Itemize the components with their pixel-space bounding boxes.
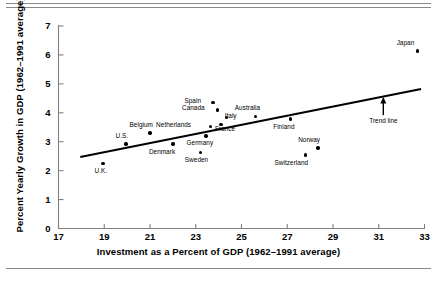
x-tick-label-31: 31 xyxy=(367,231,391,242)
data-point-label: U.S. xyxy=(115,132,128,139)
y-tick-label-0: 0 xyxy=(35,223,51,234)
y-tick-label-4: 4 xyxy=(35,107,51,118)
y-axis-title: Percent Yearly Growth in GDP (1962–1991 … xyxy=(14,23,25,233)
data-point xyxy=(204,134,207,137)
y-tick-label-6: 6 xyxy=(35,49,51,60)
arrow-head xyxy=(380,97,386,104)
data-point-label: Germany xyxy=(187,139,214,146)
x-tick-label-33: 33 xyxy=(413,231,437,242)
data-point-label: Netherlands xyxy=(156,121,191,128)
data-point-label: Italy xyxy=(225,112,237,119)
data-point xyxy=(101,162,104,165)
data-point-label: Norway xyxy=(298,136,320,143)
x-tick-label-23: 23 xyxy=(184,231,208,242)
data-point xyxy=(216,108,219,111)
x-tick-label-21: 21 xyxy=(138,231,162,242)
data-point-label: Canada xyxy=(182,104,205,111)
data-point xyxy=(254,115,257,118)
data-point xyxy=(199,151,202,154)
x-tick-label-27: 27 xyxy=(275,231,299,242)
y-tick-label-3: 3 xyxy=(35,136,51,147)
data-point-label: Japan xyxy=(397,39,415,46)
y-tick-label-5: 5 xyxy=(35,78,51,89)
data-point xyxy=(148,131,151,134)
x-tick-label-19: 19 xyxy=(92,231,116,242)
data-point xyxy=(304,153,307,156)
data-point-label: Spain xyxy=(184,97,201,104)
trend-line-label: Trend line xyxy=(369,117,397,124)
data-point xyxy=(171,142,174,145)
trend-line-arrow xyxy=(380,97,386,115)
figure-container: U.K.U.S.BelgiumDenmarkSwedenGermanyNethe… xyxy=(0,0,437,282)
data-point xyxy=(316,146,319,149)
data-point-label: Belgium xyxy=(130,121,153,128)
y-tick-label-1: 1 xyxy=(35,194,51,205)
data-point xyxy=(124,142,127,145)
x-axis-title: Investment as a Percent of GDP (1962–199… xyxy=(0,246,437,257)
x-tick-label-29: 29 xyxy=(321,231,345,242)
x-tick-label-25: 25 xyxy=(230,231,254,242)
y-tick-label-2: 2 xyxy=(35,165,51,176)
data-point-label: Sweden xyxy=(185,156,208,163)
data-point-label: France xyxy=(215,125,235,132)
data-point xyxy=(211,101,214,104)
data-point-label: Finland xyxy=(273,123,294,130)
data-point-label: U.K. xyxy=(95,167,108,174)
scatter-plot: U.K.U.S.BelgiumDenmarkSwedenGermanyNethe… xyxy=(0,0,437,282)
y-tick-label-7: 7 xyxy=(35,20,51,31)
data-point-label: Switzerland xyxy=(275,159,309,166)
data-point-label: Denmark xyxy=(149,148,175,155)
data-point-label: Australia xyxy=(235,104,260,111)
